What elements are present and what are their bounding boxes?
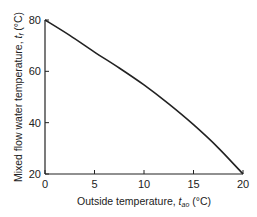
y-tick-label: 40 (29, 117, 41, 129)
data-curve (45, 20, 243, 174)
x-axis: 05101520 (42, 170, 249, 190)
x-tick-label: 10 (138, 178, 150, 190)
chart: 20406080 05101520 Outside temperature, t… (0, 0, 257, 217)
x-tick-label: 0 (42, 178, 48, 190)
x-tick-label: 20 (237, 178, 249, 190)
y-axis-label: Mixed flow water temperature, tf (°C) (12, 12, 25, 182)
y-tick-label: 20 (29, 168, 41, 180)
x-tick-label: 15 (187, 178, 199, 190)
x-axis-label: Outside temperature, tao (°C) (77, 195, 211, 208)
x-tick-label: 5 (91, 178, 97, 190)
y-tick-label: 60 (29, 65, 41, 77)
y-axis: 20406080 (29, 14, 49, 180)
y-tick-label: 80 (29, 14, 41, 26)
